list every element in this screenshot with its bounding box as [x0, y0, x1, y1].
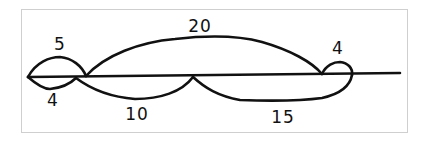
arc-5	[28, 57, 86, 77]
arc-20	[86, 37, 322, 76]
arc-5-label: 5	[54, 36, 66, 53]
arc-4-left-label: 4	[47, 92, 59, 109]
arc-4-left	[28, 77, 76, 89]
arc-10-label: 10	[125, 106, 149, 123]
arc-15-label: 15	[271, 109, 295, 126]
arc-4-right-label: 4	[332, 40, 344, 57]
arc-10	[76, 77, 193, 99]
number-line-drawing	[0, 0, 430, 144]
arc-20-label: 20	[188, 18, 212, 35]
arc-15	[193, 75, 352, 101]
diagram-canvas: 5 4 20 10 15 4	[0, 0, 430, 144]
